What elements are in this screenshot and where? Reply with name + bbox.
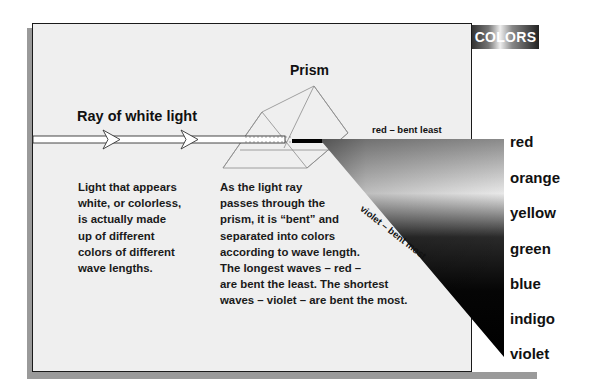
light-ray-icon	[33, 130, 292, 149]
color-label-green: green	[510, 240, 551, 257]
color-label-blue: blue	[510, 275, 541, 292]
white-light-explanation: Light that appears white, or colorless, …	[78, 179, 181, 276]
ray-title: Ray of white light	[77, 108, 197, 124]
color-label-violet: violet	[510, 345, 549, 362]
color-label-yellow: yellow	[510, 204, 556, 221]
prism-icon	[223, 86, 348, 168]
prism-title: Prism	[290, 62, 329, 78]
prism-explanation: As the light ray passes through the pris…	[220, 179, 407, 309]
red-bent-least-label: red – bent least	[372, 124, 442, 135]
color-label-orange: orange	[510, 169, 560, 186]
color-label-indigo: indigo	[510, 310, 555, 327]
color-label-red: red	[510, 133, 533, 150]
